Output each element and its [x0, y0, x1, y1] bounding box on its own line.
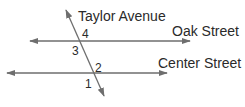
- angle-3-label: 3: [72, 45, 79, 57]
- angle-2-label: 2: [95, 62, 102, 74]
- angle-1-label: 1: [85, 78, 92, 90]
- taylor-avenue-label: Taylor Avenue: [78, 9, 166, 23]
- center-street-label: Center Street: [158, 56, 241, 70]
- oak-street-label: Oak Street: [172, 24, 239, 38]
- diagram: Taylor Avenue Oak Street Center Street 4…: [0, 0, 245, 107]
- angle-4-label: 4: [82, 28, 89, 40]
